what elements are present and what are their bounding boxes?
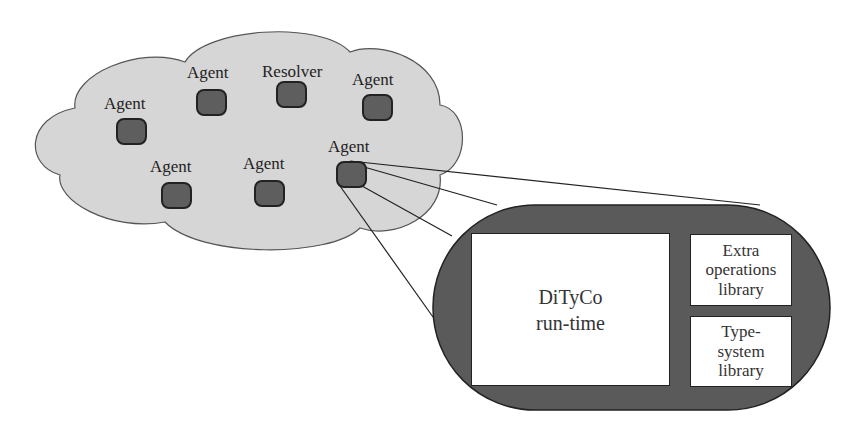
- node-label: Agent: [352, 71, 394, 88]
- runtime-label-line-1: DiTyCo: [536, 284, 605, 310]
- node-label: Agent: [104, 95, 146, 112]
- extra-operations-library-box: Extra operations library: [690, 234, 792, 306]
- agent-node: [336, 161, 367, 188]
- agent-node: [362, 94, 393, 121]
- type-system-library-box: Type- system library: [690, 316, 792, 387]
- network-cloud: [35, 32, 462, 250]
- node-label: Agent: [150, 158, 192, 175]
- agent-node: [254, 180, 285, 207]
- node-label: Agent: [243, 155, 285, 172]
- type-system-line-3: library: [717, 361, 764, 381]
- node-label: Resolver: [262, 63, 322, 80]
- type-system-line-2: system: [717, 342, 764, 362]
- extra-ops-line-2: operations: [706, 260, 777, 280]
- type-system-line-1: Type-: [717, 322, 764, 342]
- agent-node: [196, 89, 227, 116]
- extra-ops-line-3: library: [706, 280, 777, 300]
- node-label: Agent: [187, 64, 229, 81]
- extra-ops-line-1: Extra: [706, 241, 777, 261]
- agent-node: [161, 182, 192, 209]
- agent-node: [116, 118, 147, 145]
- runtime-label-line-2: run-time: [536, 310, 605, 336]
- resolver-node: [276, 81, 307, 108]
- runtime-box: DiTyCo run-time: [471, 233, 670, 386]
- node-label: Agent: [328, 138, 370, 155]
